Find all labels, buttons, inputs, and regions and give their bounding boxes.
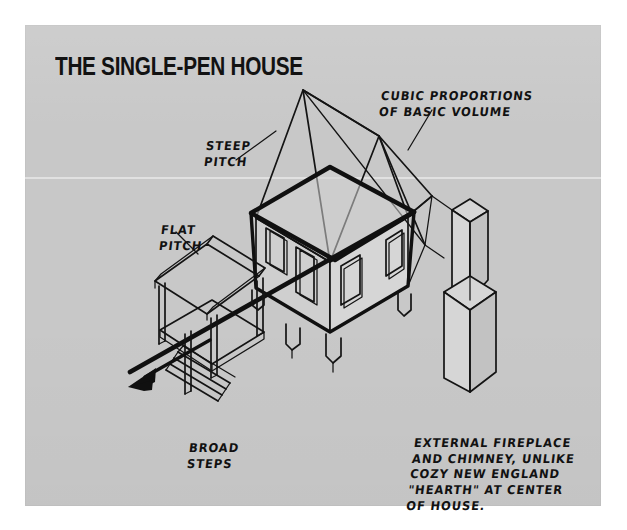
page-title: THE SINGLE-PEN HOUSE xyxy=(55,51,303,82)
drawing-board: THE SINGLE-PEN HOUSE STEEP PITCH CUBIC P… xyxy=(25,25,601,506)
annotation-cubic-proportions: CUBIC PROPORTIONS OF BASIC VOLUME xyxy=(378,88,534,120)
annotation-steep-pitch: STEEP PITCH xyxy=(203,138,252,170)
annotation-external-fireplace: EXTERNAL FIREPLACE AND CHIMNEY, UNLIKE C… xyxy=(405,435,577,515)
illustration-page: THE SINGLE-PEN HOUSE STEEP PITCH CUBIC P… xyxy=(0,0,627,530)
annotation-flat-pitch: FLAT PITCH xyxy=(158,222,205,254)
annotation-broad-steps: BROAD STEPS xyxy=(186,440,240,472)
